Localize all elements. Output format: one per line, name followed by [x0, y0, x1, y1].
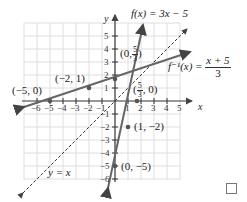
x-tick: 3	[151, 104, 156, 113]
y-tick: −2	[100, 123, 110, 132]
label-m5-0: (−5, 0)	[12, 85, 42, 96]
y-tick: −4	[100, 149, 110, 158]
point-m2-1	[87, 86, 92, 91]
y-tick: 5	[104, 32, 109, 41]
y-tick: 2	[104, 71, 109, 80]
x-tick: 1	[125, 104, 130, 113]
checkbox[interactable]	[226, 183, 237, 194]
label-1-m2: (1, −2)	[134, 121, 164, 132]
f-label: f(x) = 3x − 5	[131, 8, 188, 19]
label-0-53: (0,53)	[120, 46, 142, 63]
y-tick: 3	[104, 58, 109, 67]
x-tick: 2	[138, 104, 143, 113]
x-tick: −3	[70, 104, 80, 113]
x-axis-label: x	[198, 102, 202, 112]
point-0-m5	[113, 164, 118, 169]
y-tick: −3	[100, 136, 110, 145]
y-tick: −6	[100, 175, 110, 184]
y-tick: 1	[104, 84, 109, 93]
label-0-m5: (0, −5)	[121, 161, 151, 172]
point-0-53	[113, 77, 118, 82]
x-tick: −5	[44, 104, 54, 113]
x-tick: −4	[57, 104, 67, 113]
y-axis-label: y	[104, 14, 108, 24]
label-53-0: (53, 0)	[133, 82, 157, 99]
x-tick: 4	[164, 104, 169, 113]
point-1-m2	[126, 125, 131, 130]
y-tick: 4	[104, 45, 109, 54]
y-tick: −5	[100, 162, 110, 171]
y-equals-x-label: y = x	[48, 167, 71, 178]
x-tick: −6	[31, 104, 41, 113]
x-tick: 5	[177, 104, 182, 113]
x-tick: −2	[83, 104, 93, 113]
label-m2-1: (−2, 1)	[55, 73, 85, 84]
f-inverse-label: f⁻¹(x) = x + 53	[168, 55, 231, 79]
y-tick: −1	[100, 110, 110, 119]
